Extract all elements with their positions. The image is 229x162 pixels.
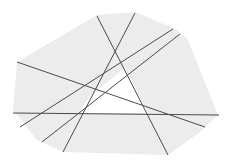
diagram-canvas [0,0,229,162]
line-arrangement-diagram [0,0,229,162]
